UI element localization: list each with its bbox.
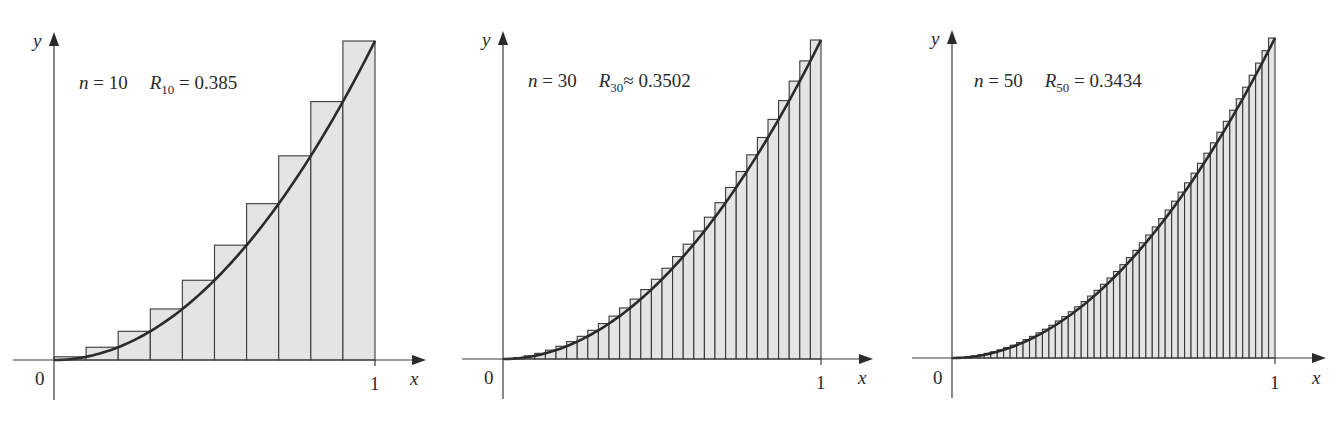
annotation: n = 50R50 = 0.3434	[974, 70, 1142, 95]
riemann-rectangle	[1159, 219, 1165, 358]
x-tick-one-label: 1	[1270, 372, 1280, 393]
riemann-rectangle	[1068, 312, 1074, 358]
riemann-rectangle	[279, 156, 311, 360]
x-tick-one-label: 1	[370, 373, 380, 394]
n-symbol: n	[79, 72, 89, 93]
riemann-rectangle	[736, 172, 747, 360]
riemann-rectangle	[1269, 38, 1275, 358]
riemann-rectangle	[1230, 110, 1236, 358]
riemann-rectangle	[704, 217, 715, 359]
riemann-rectangle	[810, 40, 821, 359]
riemann-rectangle	[1178, 192, 1184, 358]
n-value: = 50	[984, 70, 1023, 91]
r-subscript: 10	[161, 82, 174, 97]
x-axis-arrow-icon	[859, 354, 873, 364]
riemann-rectangle	[1094, 290, 1100, 358]
riemann-sum-figure: y x 0 1 n = 10R10 = 0.385 y x 0 1 n = 30…	[0, 0, 1341, 423]
x-tick-one-label: 1	[816, 372, 826, 393]
riemann-rectangle	[1152, 227, 1158, 358]
origin-label: 0	[484, 367, 494, 388]
riemann-rectangle	[311, 102, 343, 360]
y-axis-arrow-icon	[498, 31, 508, 45]
riemann-rectangle	[1139, 243, 1145, 358]
n-value: = 30	[538, 70, 577, 91]
riemann-rectangle	[683, 244, 694, 359]
riemann-rectangle	[1133, 250, 1139, 358]
origin-label: 0	[35, 368, 45, 389]
riemann-rectangle	[1217, 132, 1223, 358]
riemann-rectangle	[1049, 325, 1055, 358]
riemann-rectangle	[1062, 317, 1068, 358]
r-symbol: R	[1044, 70, 1057, 91]
panel-n30: y x 0 1 n = 30R30≈ 0.3502	[462, 29, 873, 399]
riemann-rectangle	[1256, 63, 1262, 358]
r-symbol: R	[598, 70, 611, 91]
riemann-rectangle	[1172, 201, 1178, 358]
riemann-rectangle	[1185, 183, 1191, 358]
riemann-rectangle	[726, 187, 737, 359]
x-axis-arrow-icon	[1312, 353, 1326, 363]
y-axis-arrow-icon	[947, 30, 957, 44]
y-axis-label: y	[929, 28, 940, 49]
riemann-rectangle	[662, 268, 673, 359]
y-axis-label: y	[480, 29, 491, 50]
x-axis-label: x	[1311, 367, 1321, 388]
n-value: = 10	[89, 72, 128, 93]
panel-n10: y x 0 1 n = 10R10 = 0.385	[13, 30, 426, 400]
r-value: ≈ 0.3502	[623, 70, 690, 91]
riemann-rectangle	[1120, 265, 1126, 358]
riemann-rectangle	[1114, 271, 1120, 358]
n-symbol: n	[974, 70, 984, 91]
riemann-rectangle	[1210, 143, 1216, 358]
x-axis-arrow-icon	[412, 355, 426, 365]
y-axis-arrow-icon	[49, 32, 59, 46]
riemann-rectangle	[779, 101, 790, 359]
annotation: n = 10R10 = 0.385	[79, 72, 237, 97]
riemann-rectangle	[789, 81, 800, 359]
x-axis-label: x	[409, 368, 419, 389]
riemann-rectangle	[1146, 235, 1152, 358]
riemann-rectangle	[150, 309, 182, 360]
riemann-rectangle	[800, 61, 811, 359]
riemann-rectangle	[1075, 307, 1081, 358]
riemann-rectangle	[1165, 210, 1171, 358]
riemann-rectangle	[182, 280, 214, 360]
riemann-rectangle	[343, 41, 375, 360]
riemann-rectangle	[768, 119, 779, 359]
n-symbol: n	[528, 70, 538, 91]
riemann-rectangle	[1107, 278, 1113, 358]
y-axis-label: y	[31, 30, 42, 51]
riemann-rectangle	[694, 231, 705, 359]
riemann-rectangle	[747, 155, 758, 359]
riemann-rectangle	[1204, 153, 1210, 358]
riemann-rectangle	[1243, 87, 1249, 358]
annotation: n = 30R30≈ 0.3502	[528, 70, 691, 95]
riemann-rectangle	[1126, 258, 1132, 358]
r-subscript: 50	[1056, 80, 1069, 95]
riemann-rectangle	[1088, 296, 1094, 358]
r-value: = 0.385	[174, 72, 237, 93]
riemann-rectangle	[651, 279, 662, 359]
riemann-rectangle	[757, 137, 768, 359]
riemann-rectangle	[1081, 302, 1087, 358]
riemann-rectangle	[1055, 321, 1061, 358]
panel-n50: y x 0 1 n = 50R50 = 0.3434	[912, 28, 1326, 398]
r-value: = 0.3434	[1069, 70, 1142, 91]
r-symbol: R	[149, 72, 162, 93]
riemann-rectangle	[1236, 99, 1242, 358]
origin-label: 0	[933, 367, 943, 388]
riemann-rectangle	[715, 203, 726, 359]
riemann-rectangle	[641, 290, 652, 359]
x-axis-label: x	[857, 367, 867, 388]
riemann-rectangle	[1249, 75, 1255, 358]
r-subscript: 30	[610, 80, 623, 95]
riemann-rectangle	[1101, 284, 1107, 358]
riemann-rectangle	[1191, 173, 1197, 358]
riemann-rectangle	[1223, 121, 1229, 358]
riemann-rectangle	[1197, 163, 1203, 358]
riemann-rectangle	[673, 257, 684, 359]
riemann-rectangle	[1262, 51, 1268, 358]
